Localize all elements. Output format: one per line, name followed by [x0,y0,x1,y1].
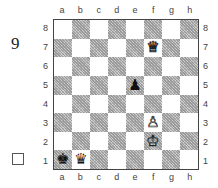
file-label-e: e [126,5,144,15]
rank-label-5: 5 [43,76,48,95]
square-d7[interactable] [108,39,126,58]
square-g1[interactable] [162,150,180,169]
black-king-icon[interactable]: ♚ [56,152,69,167]
square-d8[interactable] [108,20,126,39]
square-g8[interactable] [162,20,180,39]
chess-board: ♕♟♙♔♚♛ [53,19,199,170]
square-f6[interactable] [144,57,162,76]
white-king-icon[interactable]: ♔ [146,134,159,149]
square-h4[interactable] [180,95,198,114]
square-b6[interactable] [72,57,90,76]
rank-label-3: 3 [43,113,48,132]
square-f8[interactable] [144,20,162,39]
square-e3[interactable] [126,113,144,132]
black-queen-icon[interactable]: ♛ [74,152,87,167]
square-f3[interactable]: ♙ [144,113,162,132]
square-c4[interactable] [90,95,108,114]
square-h7[interactable] [180,39,198,58]
square-a8[interactable] [54,20,72,39]
rank-label-6: 6 [43,57,48,76]
square-e5[interactable]: ♟ [126,76,144,95]
rank-label-8: 8 [203,19,208,38]
square-d3[interactable] [108,113,126,132]
square-d2[interactable] [108,132,126,151]
file-label-e: e [126,172,144,182]
square-f2[interactable]: ♔ [144,132,162,151]
file-labels-bottom: abcdefgh [53,172,199,182]
file-label-f: f [144,172,162,182]
square-g5[interactable] [162,76,180,95]
square-c2[interactable] [90,132,108,151]
square-g4[interactable] [162,95,180,114]
rank-label-4: 4 [203,95,208,114]
square-h3[interactable] [180,113,198,132]
square-d4[interactable] [108,95,126,114]
square-h1[interactable] [180,150,198,169]
square-a6[interactable] [54,57,72,76]
solution-checkbox[interactable] [12,153,24,165]
square-g2[interactable] [162,132,180,151]
square-a3[interactable] [54,113,72,132]
square-c7[interactable] [90,39,108,58]
square-a7[interactable] [54,39,72,58]
square-a4[interactable] [54,95,72,114]
square-e1[interactable] [126,150,144,169]
square-f1[interactable] [144,150,162,169]
square-c5[interactable] [90,76,108,95]
white-pawn-icon[interactable]: ♙ [146,115,159,130]
square-b2[interactable] [72,132,90,151]
square-c8[interactable] [90,20,108,39]
square-c1[interactable] [90,150,108,169]
square-e8[interactable] [126,20,144,39]
file-label-g: g [163,5,181,15]
square-h2[interactable] [180,132,198,151]
rank-label-2: 2 [43,132,48,151]
file-label-b: b [71,5,89,15]
square-b3[interactable] [72,113,90,132]
square-b4[interactable] [72,95,90,114]
file-label-d: d [108,5,126,15]
square-e2[interactable] [126,132,144,151]
rank-label-4: 4 [43,95,48,114]
square-b5[interactable] [72,76,90,95]
square-c3[interactable] [90,113,108,132]
square-h5[interactable] [180,76,198,95]
file-label-b: b [71,172,89,182]
square-g3[interactable] [162,113,180,132]
square-f5[interactable] [144,76,162,95]
square-b1[interactable]: ♛ [72,150,90,169]
square-e7[interactable] [126,39,144,58]
rank-label-7: 7 [43,38,48,57]
square-c6[interactable] [90,57,108,76]
square-d6[interactable] [108,57,126,76]
square-f7[interactable]: ♕ [144,39,162,58]
square-g6[interactable] [162,57,180,76]
rank-label-1: 1 [203,151,208,170]
rank-label-7: 7 [203,38,208,57]
file-label-c: c [90,5,108,15]
square-h8[interactable] [180,20,198,39]
square-h6[interactable] [180,57,198,76]
square-e4[interactable] [126,95,144,114]
rank-label-6: 6 [203,57,208,76]
square-e6[interactable] [126,57,144,76]
black-pawn-icon[interactable]: ♟ [128,78,141,93]
square-b7[interactable] [72,39,90,58]
file-label-h: h [181,5,199,15]
square-a2[interactable] [54,132,72,151]
file-label-a: a [53,172,71,182]
file-label-h: h [181,172,199,182]
file-label-c: c [90,172,108,182]
file-label-g: g [163,172,181,182]
white-queen-icon[interactable]: ♕ [146,40,159,55]
square-d5[interactable] [108,76,126,95]
square-d1[interactable] [108,150,126,169]
square-a5[interactable] [54,76,72,95]
rank-labels-left: 87654321 [43,19,48,170]
rank-label-3: 3 [203,113,208,132]
rank-label-8: 8 [43,19,48,38]
square-g7[interactable] [162,39,180,58]
square-f4[interactable] [144,95,162,114]
square-a1[interactable]: ♚ [54,150,72,169]
square-b8[interactable] [72,20,90,39]
